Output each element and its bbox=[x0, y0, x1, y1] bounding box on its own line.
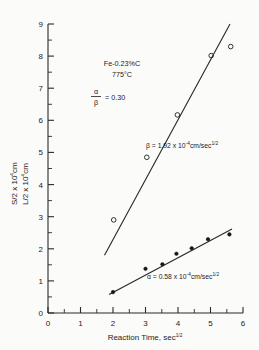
chart-figure: 0 1 2 3 4 5 6 7 8 9 bbox=[0, 0, 259, 350]
y-tick-label: 5 bbox=[39, 148, 44, 157]
data-point-filled bbox=[144, 267, 148, 271]
x-tick-label: 4 bbox=[176, 319, 181, 328]
alpha-label-unit: cm/sec bbox=[191, 273, 213, 280]
y-tick-label: 8 bbox=[39, 52, 44, 61]
x-tick-label: 1 bbox=[78, 319, 83, 328]
x-axis-tick-labels: 0 1 2 3 4 5 6 bbox=[46, 319, 246, 328]
svg-text:S/2 x 104cm: S/2 x 104cm bbox=[10, 162, 19, 205]
x-tick-label: 6 bbox=[241, 319, 246, 328]
annotation-ratio-value: = 0.30 bbox=[105, 93, 125, 102]
y-tick-label: 3 bbox=[39, 213, 44, 222]
data-point-open bbox=[175, 113, 180, 118]
x-axis-title-exponent: 1/2 bbox=[176, 333, 183, 338]
y-tick-label: 4 bbox=[39, 181, 44, 190]
annotation-ratio: α β = 0.30 bbox=[91, 87, 125, 107]
y-axis-title-l-text: L/2 x 10 bbox=[21, 176, 30, 205]
y-axis-title-s-unit: cm bbox=[10, 162, 19, 173]
data-point-filled bbox=[228, 233, 232, 237]
y-tick-label: 2 bbox=[39, 245, 44, 254]
alpha-fit-line bbox=[109, 229, 232, 295]
alpha-label-unit-exponent: 1/2 bbox=[212, 272, 219, 277]
annotation-temperature: 775°C bbox=[112, 70, 132, 79]
data-point-filled bbox=[206, 237, 210, 241]
scatter-plot: 0 1 2 3 4 5 6 7 8 9 bbox=[0, 0, 259, 350]
alpha-label-text: α = 0.58 x 10 bbox=[147, 273, 187, 280]
annotation-conditions: Fe-0.23%C 775°C bbox=[104, 59, 140, 79]
beta-label-text: β = 1.92 x 10 bbox=[146, 142, 186, 150]
beta-label-unit: cm/sec bbox=[190, 142, 212, 149]
y-tick-label: 1 bbox=[39, 277, 44, 286]
y-tick-label: 9 bbox=[39, 20, 44, 29]
x-axis-title: Reaction Time, sec1/2 bbox=[108, 333, 183, 342]
data-point-filled bbox=[175, 252, 179, 256]
y-axis-tick-labels: 0 1 2 3 4 5 6 7 8 9 bbox=[39, 20, 44, 318]
beta-label-unit-exponent: 1/2 bbox=[211, 141, 218, 146]
alpha-data-points bbox=[111, 233, 231, 294]
y-axis-title-l: L/2 x 104cm bbox=[21, 163, 30, 205]
y-axis-title-s: S/2 x 104cm bbox=[10, 162, 19, 205]
y-tick-label: 7 bbox=[39, 84, 44, 93]
x-axis-title-text: Reaction Time, sec bbox=[108, 333, 176, 342]
data-point-open bbox=[228, 44, 233, 49]
svg-text:L/2 x 104cm: L/2 x 104cm bbox=[21, 163, 30, 205]
y-axis-ticks bbox=[48, 24, 54, 313]
x-tick-label: 0 bbox=[46, 319, 51, 328]
data-point-filled bbox=[111, 290, 115, 294]
data-point-open bbox=[111, 218, 116, 223]
svg-text:Reaction Time, sec1/2: Reaction Time, sec1/2 bbox=[108, 333, 183, 342]
annotation-ratio-numerator: α bbox=[94, 87, 98, 96]
y-tick-label: 6 bbox=[39, 116, 44, 125]
x-axis-ticks bbox=[48, 307, 243, 313]
annotation-composition: Fe-0.23%C bbox=[104, 59, 140, 68]
y-axis-title-l-unit: cm bbox=[21, 163, 30, 174]
y-axis-title-s-text: S/2 x 10 bbox=[10, 175, 19, 205]
x-tick-label: 5 bbox=[208, 319, 213, 328]
data-point-open bbox=[145, 155, 150, 160]
data-point-filled bbox=[190, 247, 194, 251]
x-tick-label: 2 bbox=[111, 319, 116, 328]
y-tick-label: 0 bbox=[39, 309, 44, 318]
data-point-filled bbox=[161, 263, 165, 267]
annotation-ratio-denominator: β bbox=[94, 98, 98, 107]
x-tick-label: 3 bbox=[143, 319, 148, 328]
alpha-series-label: α = 0.58 x 10-4cm/sec1/2 bbox=[147, 272, 219, 280]
beta-series-label: β = 1.92 x 10-4cm/sec1/2 bbox=[146, 141, 218, 150]
